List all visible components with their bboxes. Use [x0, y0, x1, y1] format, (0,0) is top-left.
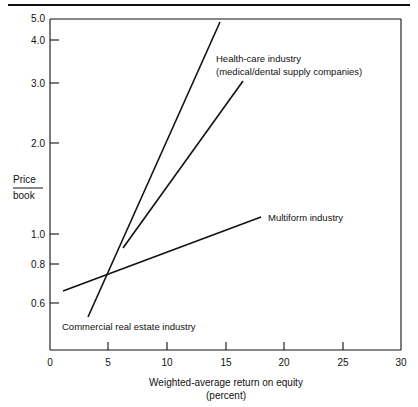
y-axis-title-numerator: Price [13, 174, 36, 185]
annotation-multiform-label: Multiform industry [268, 212, 343, 223]
y-axis-title-denominator: book [13, 190, 36, 201]
y-tick-label-4.0: 4.0 [31, 35, 45, 46]
annotation-health-care-line2: (medical/dental supply companies) [216, 66, 362, 77]
x-axis-tick-labels: 0 5 10 15 20 25 30 [47, 357, 407, 368]
annotation-health-care: Health-care industry (medical/dental sup… [216, 53, 362, 77]
series-line-commercial-real-estate [88, 22, 220, 317]
y-tick-label-1.0: 1.0 [31, 229, 45, 240]
x-axis-title: Weighted-average return on equity (perce… [149, 377, 303, 401]
y-axis-title: Price book [13, 174, 43, 201]
figure-container: 5.0 4.0 3.0 2.0 1.0 0.8 0.6 Price book 0… [0, 0, 418, 407]
y-tick-label-3.0: 3.0 [31, 78, 45, 89]
x-tick-label-5: 5 [105, 357, 111, 368]
x-tick-label-20: 20 [278, 357, 290, 368]
x-axis-ticks [108, 342, 343, 350]
chart-canvas: 5.0 4.0 3.0 2.0 1.0 0.8 0.6 Price book 0… [0, 0, 418, 407]
x-tick-label-0: 0 [47, 357, 53, 368]
series-line-multiform [63, 217, 261, 291]
y-tick-label-2.0: 2.0 [31, 138, 45, 149]
y-tick-label-0.6: 0.6 [31, 298, 45, 309]
y-axis-tick-labels: 5.0 4.0 3.0 2.0 1.0 0.8 0.6 [31, 13, 45, 309]
x-axis-title-units: (percent) [206, 390, 246, 401]
x-tick-label-10: 10 [161, 357, 173, 368]
y-tick-label-0.8: 0.8 [31, 259, 45, 270]
annotation-health-care-line1: Health-care industry [216, 53, 301, 64]
annotation-multiform: Multiform industry [268, 212, 343, 223]
y-axis-ticks [50, 40, 59, 303]
x-tick-label-30: 30 [395, 357, 407, 368]
annotation-commercial-label: Commercial real estate industry [62, 321, 196, 332]
y-tick-label-5.0: 5.0 [31, 13, 45, 24]
x-tick-label-15: 15 [220, 357, 232, 368]
annotation-commercial-real-estate: Commercial real estate industry [62, 321, 196, 332]
x-tick-label-25: 25 [337, 357, 349, 368]
x-axis-title-main: Weighted-average return on equity [149, 377, 303, 388]
